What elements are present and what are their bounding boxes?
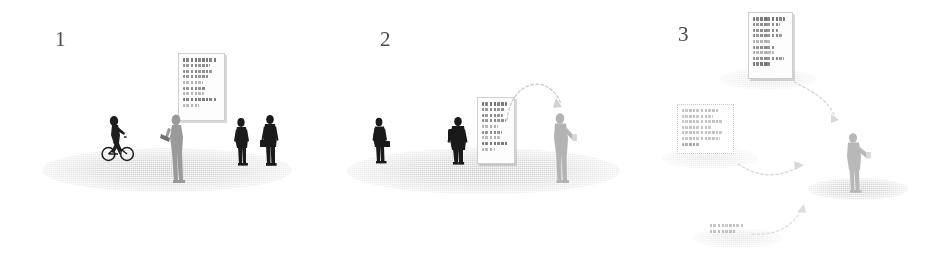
placard-line bbox=[482, 136, 500, 139]
placard-line bbox=[682, 143, 701, 147]
standing-figure-with-backpack bbox=[446, 116, 472, 166]
placard-line bbox=[753, 34, 782, 37]
placard-line bbox=[682, 120, 724, 123]
placard-line bbox=[482, 108, 505, 111]
placard-line bbox=[183, 98, 216, 102]
panel-number-3: 3 bbox=[678, 24, 689, 45]
standing-figure-right bbox=[258, 114, 284, 167]
panel-3: 3 bbox=[640, 0, 951, 261]
panel-1: 1 bbox=[0, 0, 320, 261]
panel-2: 2 bbox=[320, 0, 640, 261]
panel-number-1: 1 bbox=[55, 29, 66, 50]
placard-line bbox=[710, 230, 736, 233]
placard-line bbox=[183, 92, 204, 95]
placard-line bbox=[183, 87, 206, 90]
bottom-board-to-figure-arrow bbox=[750, 196, 840, 244]
placard-line bbox=[682, 137, 720, 140]
standing-figure-left bbox=[231, 117, 253, 167]
wall-notice-board[interactable] bbox=[178, 53, 225, 121]
placard-line bbox=[482, 119, 506, 122]
placard-line bbox=[482, 114, 503, 117]
placard-line bbox=[183, 58, 218, 62]
placard-line bbox=[482, 125, 498, 128]
placard-line bbox=[183, 64, 210, 67]
floating-board-top[interactable] bbox=[748, 12, 793, 79]
placard-line bbox=[753, 62, 770, 66]
placard-line bbox=[482, 142, 508, 146]
placard-line bbox=[753, 40, 771, 43]
placard-line bbox=[183, 104, 199, 107]
cyclist-figure bbox=[100, 113, 142, 163]
placard-line bbox=[682, 109, 719, 112]
phone-user-figure bbox=[547, 112, 579, 184]
placard-line bbox=[753, 57, 784, 60]
placard-line bbox=[753, 17, 785, 21]
walking-figure-with-bag bbox=[370, 117, 394, 165]
placard-line bbox=[753, 29, 778, 32]
placard-line bbox=[183, 81, 203, 84]
placard-line bbox=[482, 102, 507, 106]
left-board-to-figure-arrow bbox=[736, 150, 836, 196]
placard-line bbox=[682, 131, 722, 134]
floating-board-bottom[interactable] bbox=[708, 222, 752, 238]
placard-line bbox=[482, 148, 495, 151]
placard-line bbox=[753, 46, 776, 49]
placard-line bbox=[183, 70, 213, 73]
phone-user-figure bbox=[840, 132, 874, 194]
placard-line bbox=[753, 23, 780, 26]
placard-line bbox=[753, 51, 774, 54]
placard-line bbox=[710, 224, 744, 227]
panel-number-2: 2 bbox=[380, 29, 391, 50]
floating-board-left[interactable] bbox=[677, 104, 734, 154]
placard-line bbox=[682, 126, 711, 129]
placard-line bbox=[682, 115, 713, 118]
placard-line bbox=[183, 75, 209, 78]
storyboard-diagram: 1 bbox=[0, 0, 951, 261]
placard-line bbox=[482, 131, 502, 134]
reading-figure-with-tablet bbox=[159, 113, 189, 185]
